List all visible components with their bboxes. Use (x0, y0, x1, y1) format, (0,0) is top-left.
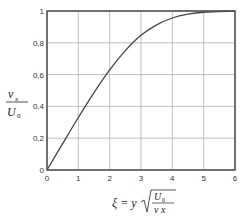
x-tick-label: 2 (107, 174, 112, 183)
x-label-xi: ξ = y (112, 196, 137, 210)
y-tick-labels: 00,20,40,60,81 (33, 7, 45, 175)
y-tick-label: 0,8 (33, 39, 45, 48)
velocity-profile-chart: 0123456 00,20,40,60,81 v x U 0 ξ = y U 0… (0, 0, 242, 223)
x-label-numerator-sub: 0 (162, 197, 165, 203)
y-label-denominator: U (7, 105, 17, 119)
y-tick-label: 0 (40, 166, 45, 175)
x-tick-label: 0 (45, 174, 50, 183)
y-tick-label: 0,4 (33, 102, 45, 111)
y-tick-label: 1 (40, 7, 45, 16)
x-label-numerator: U (154, 191, 162, 202)
x-tick-label: 5 (201, 174, 206, 183)
x-label-denominator: ν x (154, 204, 166, 215)
x-tick-label: 6 (233, 174, 238, 183)
x-tick-labels: 0123456 (45, 174, 238, 183)
x-axis-label: ξ = y U 0 ν x (112, 190, 176, 215)
y-tick-label: 0,2 (33, 134, 45, 143)
x-tick-label: 4 (170, 174, 175, 183)
y-label-numerator: v (8, 87, 14, 101)
x-tick-label: 3 (139, 174, 144, 183)
y-label-denominator-sub: 0 (17, 112, 21, 120)
y-axis-label: v x U 0 (6, 87, 28, 120)
y-tick-label: 0,6 (33, 71, 45, 80)
x-tick-label: 1 (76, 174, 81, 183)
